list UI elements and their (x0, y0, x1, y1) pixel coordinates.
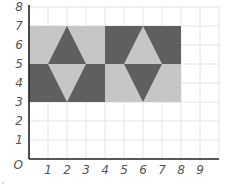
y-tick-label: 7 (15, 19, 23, 33)
pattern-shapes (29, 26, 181, 102)
x-tick-label: 2 (63, 163, 71, 177)
stray-dot (2, 182, 4, 184)
y-tick-label: 6 (15, 38, 23, 52)
y-tick-label: 8 (15, 0, 23, 14)
x-tick-label: 5 (120, 163, 128, 177)
coordinate-grid-figure: 12345678912345678O (0, 0, 232, 187)
x-tick-label: 4 (101, 163, 109, 177)
origin-label: O (14, 158, 23, 172)
x-tick-label: 1 (44, 163, 52, 177)
y-tick-label: 4 (15, 76, 23, 90)
x-tick-label: 7 (158, 163, 166, 177)
x-tick-label: 8 (177, 163, 185, 177)
x-tick-label: 9 (196, 163, 204, 177)
y-tick-label: 3 (15, 95, 23, 109)
y-tick-label: 2 (15, 114, 23, 128)
x-tick-label: 3 (82, 163, 90, 177)
x-tick-label: 6 (139, 163, 147, 177)
y-tick-label: 5 (15, 57, 23, 71)
y-tick-label: 1 (15, 133, 23, 147)
